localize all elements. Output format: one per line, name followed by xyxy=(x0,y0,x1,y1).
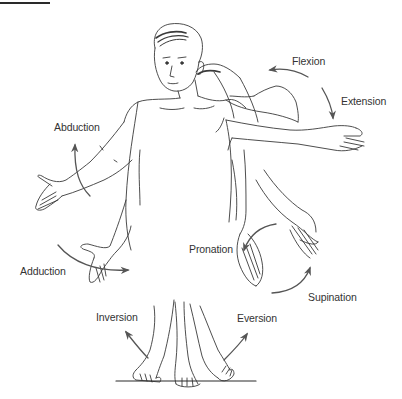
adduction-arrow xyxy=(58,245,128,270)
pronation-arrow xyxy=(244,224,276,250)
inversion-label: Inversion xyxy=(96,312,138,323)
eversion-arrow xyxy=(224,334,247,360)
flexion-label: Flexion xyxy=(292,56,325,67)
extended-arm-drawing xyxy=(226,120,364,151)
head-drawing xyxy=(154,24,204,98)
legs-feet-drawing xyxy=(133,300,234,387)
abduction-arrow xyxy=(75,145,90,196)
inversion-arrow xyxy=(126,332,148,358)
adduction-label: Adduction xyxy=(20,266,66,277)
pronation-label: Pronation xyxy=(189,244,233,255)
extension-label: Extension xyxy=(341,96,386,107)
eversion-label: Eversion xyxy=(237,313,277,324)
movement-diagram: Flexion Extension Abduction Adduction Pr… xyxy=(0,0,402,399)
flexed-arm-drawing xyxy=(196,64,298,122)
figure-drawing xyxy=(0,0,402,399)
abducted-arm-drawing xyxy=(36,122,132,210)
forearms-drawing xyxy=(232,150,318,286)
extension-arrow xyxy=(322,88,333,118)
abduction-label: Abduction xyxy=(54,122,100,133)
supination-label: Supination xyxy=(308,292,357,303)
torso-drawing xyxy=(124,96,246,250)
flexion-arrow xyxy=(270,69,308,77)
supination-arrow xyxy=(272,268,310,293)
